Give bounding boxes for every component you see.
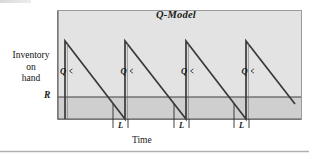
y-axis-label: Inventory on hand <box>8 50 54 85</box>
lead-time-label-3: L <box>239 120 244 130</box>
safety-stock-band <box>58 97 301 119</box>
reorder-point-label: R <box>44 90 50 100</box>
q-model-inventory-figure: Q-Model Inventory on hand R Q Q Q Q L L … <box>0 0 309 157</box>
order-quantity-label-2: Q <box>121 66 127 76</box>
order-quantity-label-1: Q <box>60 66 66 76</box>
chart-title: Q-Model <box>156 9 196 20</box>
lead-time-label-2: L <box>179 120 184 130</box>
x-axis-label: Time <box>132 135 152 145</box>
lead-time-label-1: L <box>118 120 123 130</box>
y-axis-label-line-2: on <box>8 62 54 74</box>
order-quantity-label-4: Q <box>242 66 248 76</box>
order-quantity-label-3: Q <box>181 66 187 76</box>
y-axis-label-line-3: hand <box>8 73 54 85</box>
y-axis-label-line-1: Inventory <box>8 50 54 62</box>
